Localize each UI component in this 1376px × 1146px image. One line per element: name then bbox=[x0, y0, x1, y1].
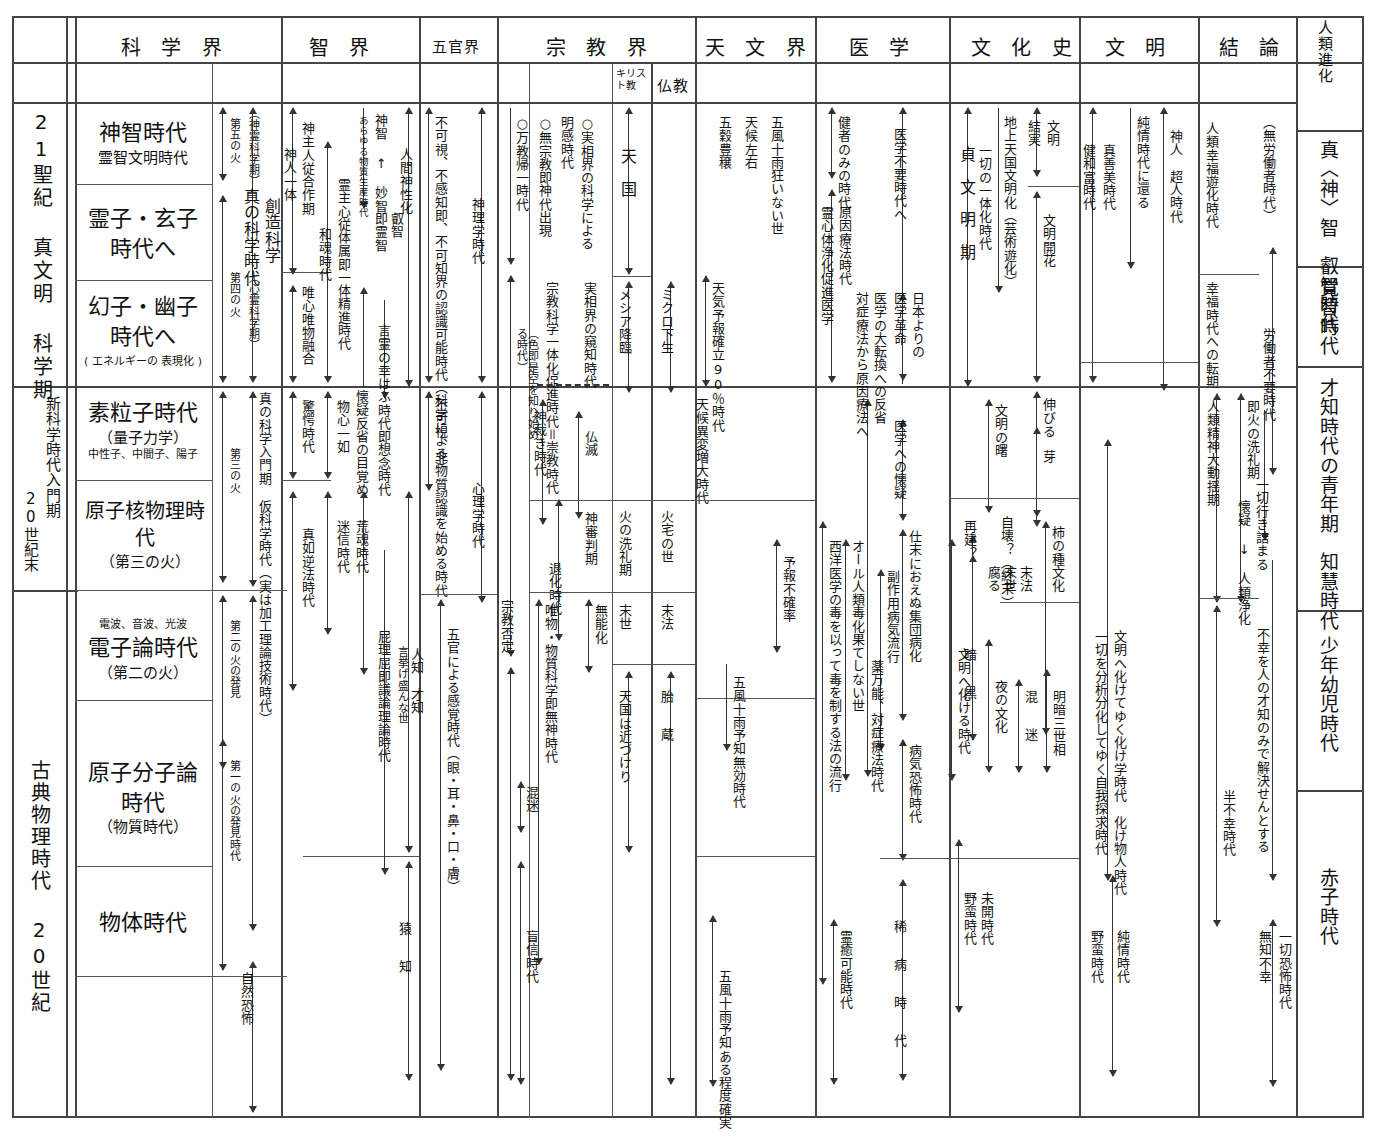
culture-note-barbaric: 野蛮時代 bbox=[963, 892, 977, 945]
conclusion-div-3 bbox=[1198, 598, 1259, 599]
culture-note-matsuyo: 末世 bbox=[1003, 566, 1017, 593]
senses-div-1 bbox=[419, 386, 497, 387]
science-arrow-intro-period bbox=[252, 392, 253, 586]
religion-note-kamisabaki: 神裁き時代 bbox=[533, 410, 547, 476]
christianity-note-kingdom: 天国は近づけり bbox=[618, 690, 632, 783]
medicine-note-from-japan: 日本よりの bbox=[911, 292, 925, 358]
civilization-note-becomecivil: 文明へ化けてゆく化け学時代 化け物人時代 bbox=[1113, 630, 1127, 895]
science-arrow-third-fire bbox=[222, 392, 223, 582]
medicine-note-disease-fear: 病気恐怖時代 bbox=[908, 744, 922, 824]
col-rule-civilization-end bbox=[1198, 16, 1200, 1118]
header-medicine: 医 学 bbox=[849, 32, 916, 61]
col-rule-science-start bbox=[75, 16, 77, 1118]
medicine-note-revolution: 医学革命 bbox=[893, 292, 907, 345]
science-cell-3-title: 幻子・幽子 bbox=[78, 292, 208, 322]
col-rule-era bbox=[66, 16, 68, 1118]
header-civilization: 文 明 bbox=[1105, 32, 1172, 61]
science-cell-4-note: 中性子、中間子、陽子 bbox=[78, 448, 208, 463]
col-rule-culture-end bbox=[1079, 16, 1081, 1118]
wisdom-note-astonishment: 驚愕時代 bbox=[301, 400, 315, 453]
medicine-note-doubt-med: 医学への懐疑 bbox=[893, 420, 907, 500]
evolution-cell-3: 才知時代の青年期 知慧時代 bbox=[1318, 378, 1338, 630]
header-science: 科 学 界 bbox=[121, 32, 229, 61]
science-cell-5: 原子核物理時代 （第三の火） bbox=[78, 498, 212, 572]
astronomy-arrow-somewhat bbox=[712, 916, 713, 1086]
era-cell-classical: 古典物理時代 20世紀 bbox=[28, 760, 49, 1014]
conclusion-note-transition: 幸福時代への転期 bbox=[1205, 282, 1219, 388]
wisdom-note-human-knowledge: 人知 才知 bbox=[410, 648, 424, 714]
astronomy-div-1 bbox=[695, 500, 815, 501]
astronomy-note-gokoku: 五穀豊穣 bbox=[718, 116, 732, 169]
evolution-cell-4: 少年幼児時代 bbox=[1318, 636, 1338, 752]
culture-note-become-civil: 文明へ化ける時代 bbox=[957, 648, 971, 754]
buddhism-div-3 bbox=[651, 664, 695, 665]
religion-note-materialism: 唯物・物質科学即無神時代 bbox=[544, 604, 558, 763]
science-cell-7-title: 原子分子論 bbox=[78, 758, 208, 788]
col-rule-christ-end bbox=[651, 62, 653, 1118]
medicine-arrow-western bbox=[822, 522, 823, 984]
culture-arrow-bud bbox=[1036, 428, 1037, 526]
col-rule-astronomy-end bbox=[815, 16, 817, 1118]
civilization-note-truth: 真善美時代 bbox=[1102, 144, 1116, 210]
wisdom-note-production: あらゆる物質生産時代 bbox=[357, 116, 368, 218]
science-cell-1: 神智時代 霊智文明時代 bbox=[78, 118, 208, 168]
religion-arrow-banky bbox=[510, 108, 511, 264]
col-rule-religion-end bbox=[695, 16, 697, 1118]
medicine-note-from-sympto: 対症療法から原因療法へ bbox=[855, 292, 869, 438]
religion-div-1 bbox=[529, 500, 612, 501]
astronomy-note-uncertain: 予報不確率 bbox=[782, 556, 796, 622]
civilization-note-superman: 神人 超人時代 bbox=[1169, 130, 1183, 223]
sci-div-5 bbox=[75, 700, 212, 701]
christianity-note-matsuyo: 末世 bbox=[618, 604, 632, 631]
wisdom-arrow-idealism-materialism bbox=[292, 286, 293, 382]
culture-note-tei: 貞 文 明 期 bbox=[957, 146, 974, 260]
wisdom-note-kotoage: 言挙げ盛んな世 bbox=[396, 646, 408, 725]
medicine-note-rare-disease: 稀 病 時 代 bbox=[893, 920, 907, 1053]
header-conclusion: 結 論 bbox=[1219, 32, 1286, 61]
science-cell-6-title: 電子論時代 bbox=[78, 633, 208, 663]
culture-arrow-confusion bbox=[1018, 680, 1019, 772]
medicine-note-unnecessary: 医学不要時代へ bbox=[893, 128, 907, 221]
wisdom-note-god-lead: 神主人従合作期 bbox=[301, 122, 315, 215]
wisdom-arrow-monkey bbox=[408, 492, 409, 852]
wisdom-arrow-matter-mind bbox=[327, 392, 328, 478]
medicine-arrow-allpoison bbox=[845, 540, 846, 780]
wisdom-note-god-human-one: 神人一体 bbox=[283, 148, 297, 201]
culture-arrow-night-culture bbox=[988, 640, 989, 772]
science-cell-5-sub: （第三の火） bbox=[78, 552, 212, 572]
astronomy-note-gofu: 五風十雨狂いない世 bbox=[770, 116, 784, 235]
religion-note-meikan: 明感時代 bbox=[560, 116, 574, 169]
science-cell-7-sub: （物質時代） bbox=[78, 817, 208, 837]
culture-note-threephase: 明暗三世相 bbox=[1052, 690, 1066, 756]
senses-note-five-senses: 五官による感覚時代（眼・耳・鼻・口・膚） bbox=[446, 628, 460, 893]
astronomy-note-anomaly: 天候異変増大時代 bbox=[695, 398, 709, 504]
religion-arrow-deny-religion bbox=[510, 668, 511, 1080]
science-note-first-fire: 第一の火の発見時代 bbox=[228, 760, 240, 861]
wisdom-note-doubt: 懐疑反省の目覚め bbox=[355, 390, 369, 496]
religion-note-noreligion: ○無宗教即神代出現 bbox=[538, 116, 552, 237]
civilization-note-pure: 純情時代に還る bbox=[1136, 116, 1150, 209]
astronomy-arrow-forecast bbox=[705, 276, 706, 386]
conclusion-note-deadend: 一切行き詰まる bbox=[1255, 478, 1269, 571]
buddhism-note-kataku: 火宅の世 bbox=[660, 510, 674, 563]
science-arrow-pseudo-science bbox=[252, 596, 253, 930]
christianity-div-1 bbox=[612, 276, 651, 277]
col-rule-senses-end bbox=[497, 16, 499, 1118]
wisdom-note-idealism-materialism: 唯心唯物融合 bbox=[301, 286, 315, 366]
religion-arrow-moshin bbox=[520, 862, 521, 1084]
conclusion-note-ignorance: 無知不幸 bbox=[1258, 930, 1272, 983]
wisdom-note-great-wisdom: 叡智 bbox=[390, 212, 404, 239]
science-cell-6-note: 電波、音波、光波 bbox=[78, 618, 208, 633]
astronomy-arrow-invalid bbox=[726, 664, 727, 750]
wisdom-note-monkey: 猿 知 bbox=[398, 922, 412, 979]
conclusion-note-solve: 不幸を人の才知のみで解決せんとする bbox=[1256, 628, 1270, 853]
astronomy-note-tenko: 天候左右 bbox=[744, 116, 758, 169]
medicine-arrow-collective bbox=[902, 530, 903, 720]
religion-note-jisso-science: ○実相界の科学による bbox=[580, 116, 594, 251]
astronomy-note-invalid: 五風十雨予知無効時代 bbox=[732, 676, 746, 809]
col-rule-wisdom-end bbox=[419, 16, 421, 1118]
header-evolution: 人類進化 bbox=[1316, 20, 1332, 84]
conclusion-div-2 bbox=[1198, 386, 1259, 387]
medicine-note-collective: 仕末におえぬ集団病化 bbox=[908, 530, 922, 663]
science-cell-4-title: 素粒子時代 bbox=[78, 398, 208, 428]
